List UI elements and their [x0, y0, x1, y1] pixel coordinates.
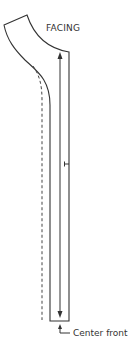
pattern-piece-outline	[4, 15, 69, 321]
center-front-label: Center front	[73, 329, 128, 338]
facing-label: FACING	[46, 24, 80, 33]
grainline-arrowhead-top	[58, 52, 63, 59]
grainline-arrowhead-bottom	[58, 311, 63, 318]
pattern-svg	[0, 0, 132, 343]
fold-line	[33, 66, 42, 320]
facing-pattern-diagram: FACING Center front	[0, 0, 132, 343]
center-front-pointer-arrowhead	[58, 324, 62, 329]
